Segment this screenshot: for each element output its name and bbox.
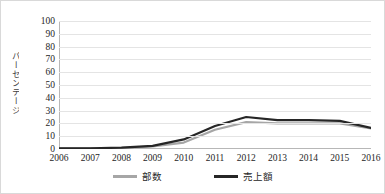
- y-axis-tick-labels: 0102030405060708090100: [23, 15, 55, 155]
- y-tick-label: 50: [23, 80, 55, 90]
- x-tick-label: 2014: [299, 152, 318, 164]
- x-tick-label: 2013: [268, 152, 287, 164]
- gridline: [59, 47, 371, 48]
- legend-label: 売上額: [243, 171, 273, 182]
- gridline: [59, 111, 371, 112]
- x-tick-label: 2016: [362, 152, 381, 164]
- x-tick-label: 2009: [143, 152, 162, 164]
- y-tick-label: 100: [23, 16, 55, 26]
- x-tick-label: 2011: [206, 152, 225, 164]
- legend-label: 部数: [142, 171, 162, 182]
- x-axis-tick-labels: 2006200720082009201020112012201320142015…: [59, 152, 371, 168]
- x-tick-label: 2015: [330, 152, 349, 164]
- x-tick-label: 2012: [237, 152, 256, 164]
- y-tick-label: 10: [23, 131, 55, 141]
- gridline: [59, 72, 371, 73]
- gridline: [59, 123, 371, 124]
- legend-item[interactable]: 部数: [113, 171, 162, 182]
- y-tick-label: 80: [23, 42, 55, 52]
- y-tick-label: 40: [23, 93, 55, 103]
- gridline: [59, 98, 371, 99]
- y-tick-label: 30: [23, 106, 55, 116]
- legend-swatch: [214, 175, 238, 178]
- gridline: [59, 21, 371, 22]
- x-tick-label: 2007: [81, 152, 100, 164]
- series-line: [59, 117, 371, 148]
- gridline: [59, 59, 371, 60]
- x-tick-label: 2008: [112, 152, 131, 164]
- legend-item[interactable]: 売上額: [214, 171, 273, 182]
- chart-legend: 部数売上額: [1, 171, 384, 182]
- y-tick-label: 90: [23, 29, 55, 39]
- y-tick-label: 20: [23, 118, 55, 128]
- x-tick-label: 2010: [174, 152, 193, 164]
- plot-area: [59, 21, 371, 149]
- legend-swatch: [113, 175, 137, 178]
- y-tick-label: 60: [23, 67, 55, 77]
- y-axis-title: パーセンテージ: [5, 37, 19, 129]
- chart-figure: パーセンテージ 0102030405060708090100 200620072…: [0, 0, 385, 194]
- y-tick-label: 70: [23, 54, 55, 64]
- x-tick-label: 2006: [50, 152, 69, 164]
- gridline: [59, 136, 371, 137]
- gridline: [59, 34, 371, 35]
- gridline: [59, 85, 371, 86]
